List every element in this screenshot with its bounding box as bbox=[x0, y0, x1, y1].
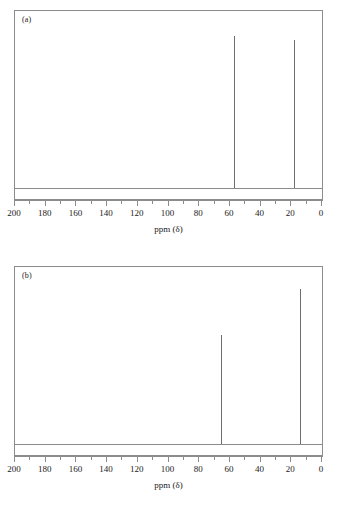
axis-tick-label: 180 bbox=[38, 464, 52, 475]
axis-title-b: ppm (δ) bbox=[14, 480, 323, 491]
axis-tick-major bbox=[321, 456, 322, 462]
axis-tick-label: 40 bbox=[255, 464, 264, 475]
x-axis-a: ppm (δ) 200180160140120100806040200 bbox=[14, 200, 323, 230]
axis-tick-minor bbox=[214, 200, 215, 204]
axis-tick-major bbox=[106, 200, 107, 206]
axis-tick-label: 80 bbox=[194, 208, 203, 219]
plot-frame-b: (b) bbox=[14, 266, 323, 456]
baseline-a bbox=[15, 188, 322, 189]
axis-title-a: ppm (δ) bbox=[14, 224, 323, 235]
axis-tick-label: 120 bbox=[130, 464, 144, 475]
peak-a-1 bbox=[234, 36, 235, 188]
axis-tick-label: 80 bbox=[194, 464, 203, 475]
axis-tick-minor bbox=[306, 200, 307, 204]
x-axis-b: ppm (δ) 200180160140120100806040200 bbox=[14, 456, 323, 486]
axis-tick-major bbox=[106, 456, 107, 462]
axis-tick-major bbox=[229, 456, 230, 462]
axis-tick-minor bbox=[275, 456, 276, 460]
axis-tick-major bbox=[290, 456, 291, 462]
axis-tick-minor bbox=[244, 200, 245, 204]
axis-tick-label: 120 bbox=[130, 208, 144, 219]
axis-tick-label: 140 bbox=[99, 464, 113, 475]
axis-tick-major bbox=[14, 456, 15, 462]
axis-tick-label: 100 bbox=[161, 464, 175, 475]
axis-tick-minor bbox=[183, 200, 184, 204]
axis-tick-minor bbox=[60, 456, 61, 460]
axis-tick-minor bbox=[152, 456, 153, 460]
axis-tick-minor bbox=[60, 200, 61, 204]
axis-tick-major bbox=[321, 200, 322, 206]
nmr-figure: (a) ppm (δ) 200180160140120100806040200 … bbox=[0, 0, 338, 506]
axis-tick-major bbox=[45, 456, 46, 462]
axis-tick-label: 40 bbox=[255, 208, 264, 219]
axis-tick-label: 0 bbox=[319, 208, 324, 219]
axis-tick-major bbox=[260, 200, 261, 206]
axis-tick-minor bbox=[214, 456, 215, 460]
axis-tick-label: 200 bbox=[7, 464, 21, 475]
axis-tick-major bbox=[290, 200, 291, 206]
axis-tick-minor bbox=[152, 200, 153, 204]
axis-tick-minor bbox=[91, 456, 92, 460]
axis-tick-label: 180 bbox=[38, 208, 52, 219]
axis-tick-minor bbox=[183, 456, 184, 460]
axis-tick-minor bbox=[29, 200, 30, 204]
axis-tick-major bbox=[260, 456, 261, 462]
axis-tick-label: 20 bbox=[286, 464, 295, 475]
axis-tick-label: 200 bbox=[7, 208, 21, 219]
axis-tick-major bbox=[168, 200, 169, 206]
axis-tick-minor bbox=[29, 456, 30, 460]
axis-tick-label: 20 bbox=[286, 208, 295, 219]
axis-tick-minor bbox=[91, 200, 92, 204]
axis-tick-minor bbox=[275, 200, 276, 204]
axis-tick-label: 100 bbox=[161, 208, 175, 219]
spectrum-b bbox=[15, 267, 322, 444]
axis-tick-major bbox=[75, 200, 76, 206]
axis-tick-major bbox=[198, 200, 199, 206]
axis-tick-minor bbox=[306, 456, 307, 460]
peak-b-2 bbox=[300, 289, 301, 444]
axis-tick-major bbox=[137, 200, 138, 206]
plot-frame-a: (a) bbox=[14, 10, 323, 200]
axis-tick-label: 60 bbox=[224, 464, 233, 475]
axis-tick-major bbox=[198, 456, 199, 462]
peak-b-1 bbox=[221, 335, 222, 444]
axis-tick-minor bbox=[244, 456, 245, 460]
axis-tick-label: 0 bbox=[319, 464, 324, 475]
axis-tick-major bbox=[45, 200, 46, 206]
axis-tick-label: 60 bbox=[224, 208, 233, 219]
axis-tick-major bbox=[75, 456, 76, 462]
spectrum-a bbox=[15, 11, 322, 188]
axis-tick-major bbox=[229, 200, 230, 206]
axis-tick-major bbox=[14, 200, 15, 206]
axis-tick-minor bbox=[121, 200, 122, 204]
panel-b: (b) ppm (δ) 200180160140120100806040200 bbox=[0, 256, 338, 506]
axis-tick-label: 160 bbox=[69, 464, 83, 475]
axis-tick-major bbox=[168, 456, 169, 462]
axis-tick-major bbox=[137, 456, 138, 462]
axis-tick-label: 140 bbox=[99, 208, 113, 219]
baseline-b bbox=[15, 444, 322, 445]
panel-a: (a) ppm (δ) 200180160140120100806040200 bbox=[0, 0, 338, 250]
axis-tick-minor bbox=[121, 456, 122, 460]
peak-a-2 bbox=[294, 40, 295, 189]
axis-tick-label: 160 bbox=[69, 208, 83, 219]
